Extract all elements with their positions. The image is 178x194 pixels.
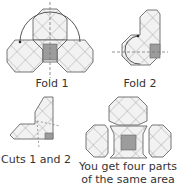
fold-1-label: Fold 1 <box>22 77 82 90</box>
result-label-line-1: You get four parts <box>78 160 178 173</box>
result-figure <box>86 97 171 158</box>
result-label-line-2: of the same area <box>78 173 178 186</box>
cuts-figure <box>10 97 60 148</box>
fold-1-figure <box>7 2 93 78</box>
result-label: You get four parts of the same area <box>78 160 178 186</box>
fold-2-label: Fold 2 <box>110 77 170 90</box>
cuts-label: Cuts 1 and 2 <box>0 153 72 166</box>
fold-2-figure <box>112 10 168 65</box>
